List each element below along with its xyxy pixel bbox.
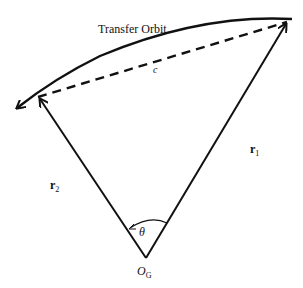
origin-subscript: G	[146, 271, 152, 280]
theta-angle-arc	[130, 220, 167, 228]
transfer-orbit-label: Transfer Orbit	[98, 22, 167, 37]
origin-label: OG	[137, 264, 151, 280]
chord-label: c	[153, 64, 157, 75]
lambert-problem-diagram: Transfer Orbit c r1 r2 θ OG	[0, 0, 303, 288]
r1-label: r1	[250, 142, 259, 158]
theta-label: θ	[139, 225, 145, 240]
r1-subscript: 1	[255, 149, 259, 158]
r2-label: r2	[50, 178, 59, 194]
r2-subscript: 2	[55, 185, 59, 194]
origin-symbol: O	[137, 264, 146, 278]
